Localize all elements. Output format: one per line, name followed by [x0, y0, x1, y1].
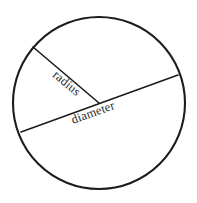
radius-label: radius: [50, 68, 83, 99]
diameter-label: diameter: [69, 98, 117, 127]
diagram-canvas: radius diameter: [0, 0, 197, 203]
circle-diagram-figure: radius diameter: [0, 0, 197, 203]
